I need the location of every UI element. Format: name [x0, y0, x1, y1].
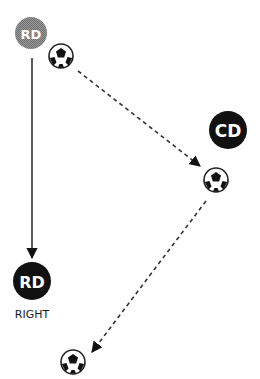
player-rd-start-label: RD: [21, 27, 42, 42]
player-rd-end-caption: RIGHT: [15, 308, 50, 321]
player-rd-start: RD: [15, 17, 47, 49]
soccer-ball-icon: [61, 350, 85, 374]
drill-diagram: RD CD RD RIGHT: [0, 0, 260, 379]
soccer-ball-icon: [204, 168, 228, 192]
pass-arrow-1: [78, 71, 200, 166]
player-cd-label: CD: [215, 121, 242, 141]
pass-arrow-2: [92, 201, 206, 352]
player-rd-end: RD RIGHT: [13, 262, 51, 321]
soccer-ball-icon: [49, 44, 73, 68]
player-cd: CD: [209, 111, 247, 149]
player-rd-end-label: RD: [19, 273, 45, 292]
